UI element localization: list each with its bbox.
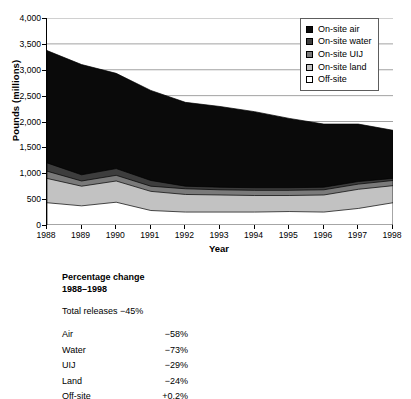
change-value: −29% [136, 360, 188, 376]
y-tick-mark [42, 173, 46, 174]
legend-item-label: On-site UIJ [318, 50, 363, 59]
percentage-change-panel: Percentage change 1988–1998 Total releas… [62, 272, 302, 399]
percentage-change-table: Air−58%Water−73%UIJ−29%Land−24%Off-site+… [62, 329, 188, 399]
x-tick-mark [288, 225, 289, 229]
y-tick-label: 2,500 [19, 91, 41, 100]
legend-item-label: On-site water [318, 37, 372, 46]
x-tick-mark [254, 225, 255, 229]
x-tick-label: 1989 [71, 231, 90, 240]
y-tick-label: 3,500 [19, 40, 41, 49]
x-tick-mark [46, 225, 47, 229]
legend-item[interactable]: Off-site [306, 73, 372, 86]
table-row: UIJ−29% [62, 360, 188, 376]
change-category-label: Water [62, 345, 136, 361]
table-row: Water−73% [62, 345, 188, 361]
change-value: −73% [136, 345, 188, 361]
y-tick-label: 1,500 [19, 143, 41, 152]
x-tick-mark [81, 225, 82, 229]
y-tick-mark [42, 122, 46, 123]
x-tick-label: 1998 [382, 231, 401, 240]
footer-heading-line1: Percentage change [62, 272, 302, 284]
change-value: +0.2% [136, 391, 188, 399]
y-tick-label: 500 [27, 195, 41, 204]
x-tick-label: 1991 [140, 231, 159, 240]
table-row: Land−24% [62, 376, 188, 392]
legend-item-label: Off-site [318, 75, 347, 84]
legend-swatch-icon [306, 64, 313, 71]
change-category-label: Air [62, 329, 136, 345]
x-tick-mark [357, 225, 358, 229]
x-tick-label: 1990 [106, 231, 125, 240]
legend-item[interactable]: On-site water [306, 36, 372, 49]
y-tick-label: 0 [36, 221, 41, 230]
x-tick-label: 1995 [279, 231, 298, 240]
change-value: −24% [136, 376, 188, 392]
y-tick-label: 4,000 [19, 14, 41, 23]
x-tick-label: 1997 [348, 231, 367, 240]
y-tick-mark [42, 70, 46, 71]
table-row: Air−58% [62, 329, 188, 345]
legend-swatch-icon [306, 38, 313, 45]
x-axis-title: Year [46, 243, 392, 254]
x-tick-label: 1992 [175, 231, 194, 240]
y-tick-label: 2,000 [19, 117, 41, 126]
legend-item[interactable]: On-site UIJ [306, 48, 372, 61]
y-tick-mark [42, 96, 46, 97]
footer-heading: Percentage change 1988–1998 [62, 272, 302, 295]
x-tick-mark [184, 225, 185, 229]
x-tick-label: 1988 [36, 231, 55, 240]
x-tick-label: 1993 [209, 231, 228, 240]
change-category-label: UIJ [62, 360, 136, 376]
legend-item-label: On-site air [318, 25, 360, 34]
legend-item-label: On-site land [318, 63, 367, 72]
legend-item[interactable]: On-site land [306, 61, 372, 74]
legend-swatch-icon [306, 76, 313, 83]
footer-heading-line2: 1988–1998 [62, 284, 302, 296]
legend-swatch-icon [306, 51, 313, 58]
x-tick-label: 1996 [313, 231, 332, 240]
x-tick-label: 1994 [244, 231, 263, 240]
y-tick-mark [42, 44, 46, 45]
change-category-label: Land [62, 376, 136, 392]
x-tick-mark [219, 225, 220, 229]
x-tick-mark [323, 225, 324, 229]
y-tick-label: 1,000 [19, 169, 41, 178]
y-tick-mark [42, 147, 46, 148]
x-tick-mark [150, 225, 151, 229]
x-tick-mark [392, 225, 393, 229]
change-value: −58% [136, 329, 188, 345]
y-tick-mark [42, 18, 46, 19]
chart-page: Pounds (millions) 05001,0001,5002,0002,5… [0, 0, 411, 399]
legend-item[interactable]: On-site air [306, 23, 372, 36]
table-row: Off-site+0.2% [62, 391, 188, 399]
y-tick-label: 3,000 [19, 65, 41, 74]
chart-legend: On-site airOn-site waterOn-site UIJOn-si… [300, 18, 379, 91]
change-category-label: Off-site [62, 391, 136, 399]
total-releases-text: Total releases −45% [62, 306, 302, 316]
y-tick-mark [42, 199, 46, 200]
legend-swatch-icon [306, 26, 313, 33]
x-tick-mark [115, 225, 116, 229]
stacked-area-chart: Pounds (millions) 05001,0001,5002,0002,5… [0, 0, 411, 265]
